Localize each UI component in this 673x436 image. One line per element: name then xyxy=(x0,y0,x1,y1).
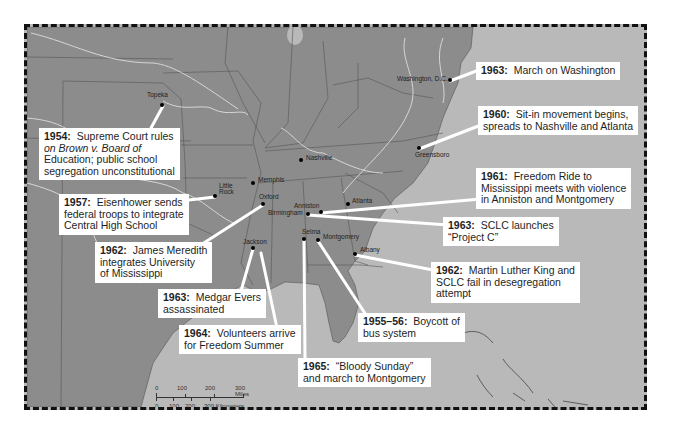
city-dot-topeka xyxy=(160,103,164,107)
city-label-atlanta: Atlanta xyxy=(352,197,372,204)
city-label-little-rock: Little Rock xyxy=(219,183,239,195)
callout-1954-brown-v-board: 1954: Supreme Court rules on Brown v. Bo… xyxy=(39,128,180,180)
callout-1965-bloody-sunday: 1965: “Bloody Sunday” and march to Montg… xyxy=(298,358,431,387)
callout-1964-freedom-summer: 1964: Volunteers arrive for Freedom Summ… xyxy=(179,325,301,354)
callout-1957-central-high: 1957: Eisenhower sends federal troops to… xyxy=(59,194,189,235)
city-label-albany: Albany xyxy=(360,246,380,253)
callout-1955-bus-boycott: 1955–56: Boycott of bus system xyxy=(358,313,465,342)
city-dot-greensboro xyxy=(417,146,421,150)
city-dot-little-rock xyxy=(213,194,217,198)
city-dot-oxford xyxy=(261,202,265,206)
city-label-montgomery: Montgomery xyxy=(323,233,359,240)
city-dot-jackson xyxy=(251,246,255,250)
city-label-birmingham: Birmingham xyxy=(268,209,303,216)
city-label-oxford: Oxford xyxy=(259,193,279,200)
city-label-anniston: Anniston xyxy=(294,202,319,209)
callout-1962-albany-movement: 1962: Martin Luther King and SCLC fail i… xyxy=(431,262,580,303)
city-dot-birmingham xyxy=(306,212,310,216)
callout-1962-james-meredith: 1962: James Meredith integrates Universi… xyxy=(95,242,212,283)
city-label-greensboro: Greensboro xyxy=(415,151,449,158)
callout-year: 1954: xyxy=(44,130,71,142)
callout-1960-sit-in: 1960: Sit-in movement begins, spreads to… xyxy=(478,106,638,135)
map-frame: Topeka Washington, D.C. Nashville Memphi… xyxy=(24,24,647,410)
city-label-selma: Selma xyxy=(302,228,320,235)
city-dot-atlanta xyxy=(346,202,350,206)
city-dot-selma xyxy=(302,237,306,241)
city-label-memphis: Memphis xyxy=(258,176,284,183)
city-label-topeka: Topeka xyxy=(147,91,168,98)
city-dot-albany xyxy=(353,252,357,256)
city-dot-washington xyxy=(448,78,452,82)
scale-bar: 0 100 200 300 Miles 0 100 200 300 Kilome… xyxy=(155,385,255,410)
city-label-washington: Washington, D.C. xyxy=(397,75,448,82)
city-label-nashville: Nashville xyxy=(306,154,332,161)
city-dot-anniston xyxy=(319,210,323,214)
city-dot-nashville xyxy=(299,158,303,162)
callout-1963-project-c: 1963: SCLC launches “Project C” xyxy=(443,217,559,246)
city-dot-memphis xyxy=(251,181,255,185)
city-dot-montgomery xyxy=(316,238,320,242)
callout-1961-freedom-ride: 1961: Freedom Ride to Mississippi meets … xyxy=(476,168,631,209)
callout-1963-medgar-evers: 1963: Medgar Evers assassinated xyxy=(158,289,266,318)
city-label-jackson: Jackson xyxy=(243,238,267,245)
callout-1963-march-on-washington: 1963: March on Washington xyxy=(476,62,620,80)
